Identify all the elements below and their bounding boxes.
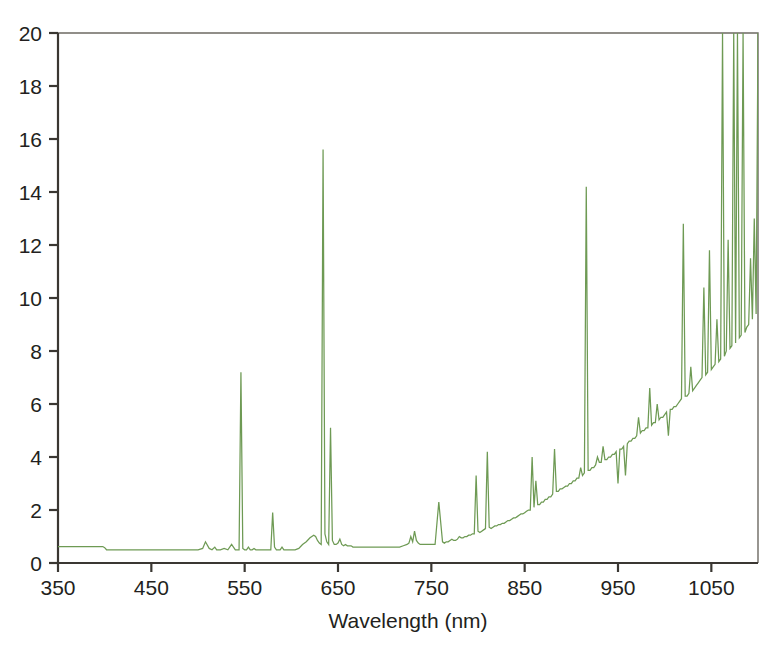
spectrum-figure: 02468101214161820 3504505506507508509501… xyxy=(0,0,780,658)
spectrum-chart: 02468101214161820 3504505506507508509501… xyxy=(0,0,780,658)
x-tick-label: 550 xyxy=(227,576,262,599)
y-tick-label: 18 xyxy=(19,75,42,98)
y-axis-ticks xyxy=(49,33,58,563)
x-tick-label: 750 xyxy=(414,576,449,599)
y-tick-label: 12 xyxy=(19,234,42,257)
y-tick-label: 0 xyxy=(30,552,42,575)
x-tick-label: 450 xyxy=(134,576,169,599)
x-tick-label: 1050 xyxy=(688,576,735,599)
x-axis-title: Wavelength (nm) xyxy=(328,609,487,632)
x-axis-tick-labels: 3504505506507508509501050 xyxy=(40,576,734,599)
x-axis-ticks xyxy=(58,563,711,572)
spectrum-trace xyxy=(58,33,758,550)
y-tick-label: 6 xyxy=(30,393,42,416)
x-tick-label: 950 xyxy=(600,576,635,599)
y-axis-tick-labels: 02468101214161820 xyxy=(19,22,43,575)
y-tick-label: 14 xyxy=(19,181,43,204)
x-tick-label: 350 xyxy=(40,576,75,599)
y-tick-label: 2 xyxy=(30,499,42,522)
data-series-group xyxy=(58,33,758,550)
y-tick-label: 10 xyxy=(19,287,42,310)
plot-frame xyxy=(58,33,758,563)
y-tick-label: 4 xyxy=(30,446,42,469)
x-tick-label: 650 xyxy=(320,576,355,599)
y-tick-label: 8 xyxy=(30,340,42,363)
y-tick-label: 16 xyxy=(19,128,42,151)
y-tick-label: 20 xyxy=(19,22,42,45)
x-tick-label: 850 xyxy=(507,576,542,599)
